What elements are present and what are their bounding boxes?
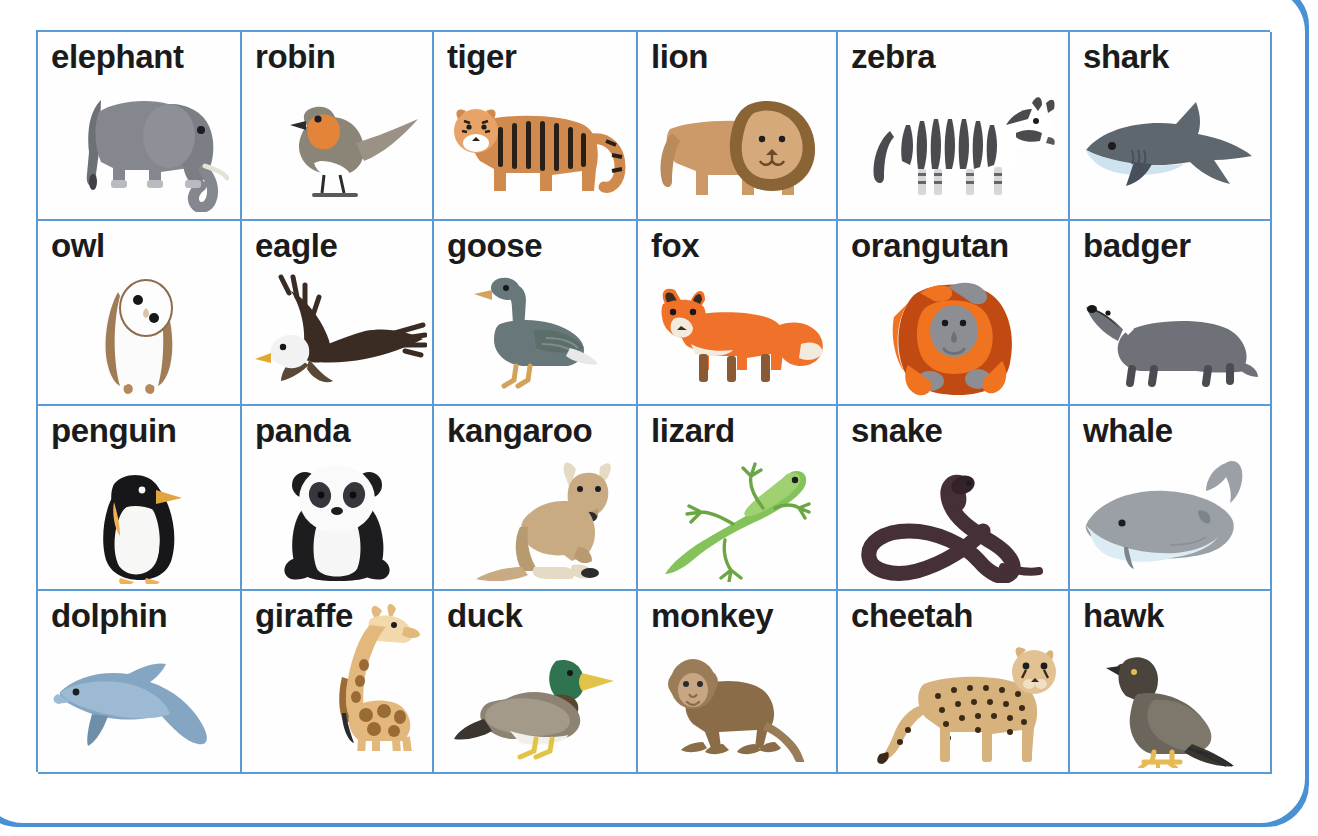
card-monkey[interactable]: monkey	[638, 591, 838, 774]
card-label: owl	[51, 225, 105, 266]
cheetah-illustration	[838, 635, 1068, 770]
card-label: lion	[651, 36, 708, 77]
card-shark[interactable]: shark	[1070, 32, 1272, 221]
duck-illustration	[434, 635, 636, 770]
card-tiger[interactable]: tiger	[434, 32, 638, 221]
lion-illustration	[638, 76, 836, 217]
shark-illustration	[1070, 76, 1270, 217]
card-goose[interactable]: goose	[434, 221, 638, 406]
robin-illustration	[242, 76, 432, 217]
owl-illustration	[38, 265, 240, 402]
card-whale[interactable]: whale	[1070, 406, 1272, 591]
card-fox[interactable]: fox	[638, 221, 838, 406]
fox-illustration	[638, 265, 836, 402]
badger-illustration	[1070, 265, 1270, 402]
card-zebra[interactable]: zebra	[838, 32, 1070, 221]
card-snake[interactable]: snake	[838, 406, 1070, 591]
animal-flashcard-grid: elephant robin	[36, 30, 1270, 772]
snake-illustration	[838, 450, 1068, 587]
kangaroo-illustration	[434, 450, 636, 587]
card-label: dolphin	[51, 595, 167, 636]
card-label: lizard	[651, 410, 735, 451]
tiger-illustration	[434, 76, 636, 217]
card-label: cheetah	[851, 595, 973, 636]
card-label: panda	[255, 410, 350, 451]
card-kangaroo[interactable]: kangaroo	[434, 406, 638, 591]
card-elephant[interactable]: elephant	[38, 32, 242, 221]
card-label: hawk	[1083, 595, 1164, 636]
card-label: eagle	[255, 225, 337, 266]
card-badger[interactable]: badger	[1070, 221, 1272, 406]
elephant-illustration	[38, 76, 240, 217]
giraffe-illustration	[242, 635, 432, 770]
lizard-illustration	[638, 450, 836, 587]
orangutan-illustration	[838, 265, 1068, 402]
penguin-illustration	[38, 450, 240, 587]
card-label: zebra	[851, 36, 935, 77]
whale-illustration	[1070, 450, 1270, 587]
card-label: penguin	[51, 410, 177, 451]
dolphin-illustration	[38, 635, 240, 770]
card-giraffe[interactable]: giraffe	[242, 591, 434, 774]
goose-illustration	[434, 265, 636, 402]
card-lizard[interactable]: lizard	[638, 406, 838, 591]
card-label: badger	[1083, 225, 1191, 266]
eagle-illustration	[242, 265, 432, 402]
card-owl[interactable]: owl	[38, 221, 242, 406]
card-duck[interactable]: duck	[434, 591, 638, 774]
card-label: snake	[851, 410, 943, 451]
monkey-illustration	[638, 635, 836, 770]
card-label: goose	[447, 225, 542, 266]
card-label: robin	[255, 36, 335, 77]
card-label: fox	[651, 225, 699, 266]
card-robin[interactable]: robin	[242, 32, 434, 221]
card-label: tiger	[447, 36, 517, 77]
card-orangutan[interactable]: orangutan	[838, 221, 1070, 406]
hawk-illustration	[1070, 635, 1270, 770]
card-label: kangaroo	[447, 410, 592, 451]
card-penguin[interactable]: penguin	[38, 406, 242, 591]
card-label: whale	[1083, 410, 1173, 451]
card-label: orangutan	[851, 225, 1009, 266]
card-label: duck	[447, 595, 522, 636]
card-hawk[interactable]: hawk	[1070, 591, 1272, 774]
card-label: shark	[1083, 36, 1169, 77]
card-eagle[interactable]: eagle	[242, 221, 434, 406]
card-label: elephant	[51, 36, 184, 77]
card-lion[interactable]: lion	[638, 32, 838, 221]
card-dolphin[interactable]: dolphin	[38, 591, 242, 774]
card-label: monkey	[651, 595, 773, 636]
card-panda[interactable]: panda	[242, 406, 434, 591]
card-cheetah[interactable]: cheetah	[838, 591, 1070, 774]
panda-illustration	[242, 450, 432, 587]
zebra-illustration	[838, 76, 1068, 217]
